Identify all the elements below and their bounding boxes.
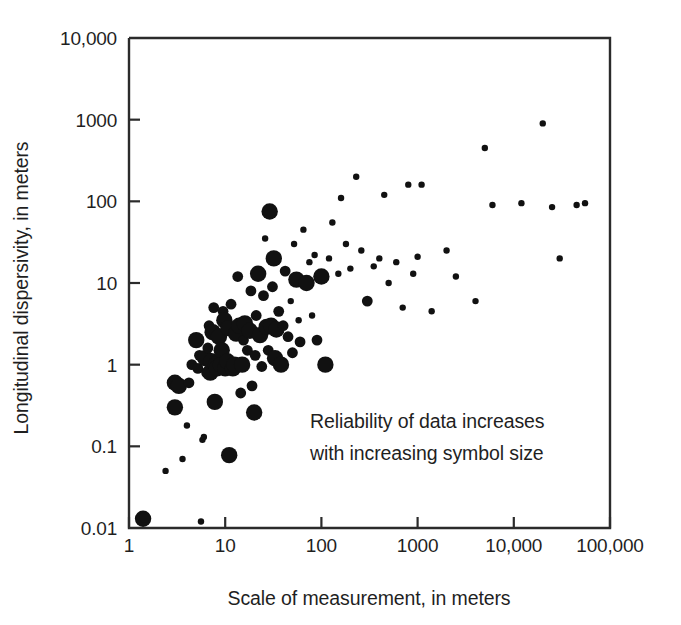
data-point — [557, 255, 563, 261]
data-point — [207, 394, 223, 410]
data-point — [326, 255, 332, 261]
data-point — [358, 247, 364, 253]
data-point — [311, 252, 317, 258]
data-point — [405, 181, 411, 187]
data-point — [400, 304, 406, 310]
data-point — [582, 200, 588, 206]
data-point — [573, 202, 579, 208]
reliability-note-line-1: Reliability of data increases — [310, 410, 545, 432]
data-point — [262, 235, 268, 241]
data-point — [306, 259, 312, 265]
data-point — [278, 320, 289, 331]
data-point — [312, 335, 323, 346]
data-point — [251, 310, 262, 321]
data-point — [202, 343, 213, 354]
x-axis-title: Scale of measurement, in meters — [227, 587, 510, 609]
data-point — [347, 265, 353, 271]
data-point — [371, 263, 377, 269]
reliability-note-line-2: with increasing symbol size — [309, 442, 544, 464]
y-tick-label: 0.1 — [91, 436, 117, 457]
data-point — [221, 447, 237, 463]
data-point — [139, 512, 150, 523]
data-point — [256, 361, 267, 372]
data-point — [300, 226, 306, 232]
data-point — [280, 266, 291, 277]
data-point — [167, 399, 183, 415]
data-point — [232, 271, 243, 282]
data-point — [198, 518, 204, 524]
y-axis-title: Longitudinal dispersivity, in meters — [10, 141, 32, 434]
x-axis-tick-labels: 110100100010,000100,000 — [124, 535, 644, 556]
y-axis-tick-labels: 0.010.1110100100010,000 — [60, 28, 117, 539]
data-point — [179, 456, 185, 462]
data-point — [295, 317, 301, 323]
data-point — [418, 181, 424, 187]
data-point — [329, 219, 335, 225]
data-point — [295, 337, 306, 348]
dispersivity-scatter-figure: 110100100010,000100,000 0.010.1110100100… — [0, 0, 681, 625]
x-tick-label: 1 — [124, 535, 134, 556]
data-point — [273, 356, 289, 372]
data-point — [188, 332, 204, 348]
data-point — [235, 388, 246, 399]
data-point — [385, 280, 391, 286]
data-point — [309, 312, 315, 318]
data-point — [261, 203, 277, 219]
y-tick-label: 100 — [86, 191, 117, 212]
data-point — [317, 356, 333, 372]
y-tick-label: 1000 — [76, 110, 117, 131]
data-point — [414, 253, 420, 259]
x-tick-label: 100 — [306, 535, 337, 556]
data-point — [443, 247, 449, 253]
data-point — [540, 120, 546, 126]
data-point — [201, 434, 207, 440]
scatter-plot-canvas: 110100100010,000100,000 0.010.1110100100… — [0, 0, 681, 625]
y-tick-label: 1 — [107, 355, 117, 376]
x-tick-label: 10 — [215, 535, 236, 556]
y-tick-label: 10 — [96, 273, 117, 294]
data-point — [287, 347, 298, 358]
x-tick-label: 10,000 — [485, 535, 542, 556]
data-point — [283, 331, 294, 342]
data-point — [250, 350, 261, 361]
y-tick-label: 0.01 — [81, 518, 117, 539]
data-point — [298, 275, 314, 291]
data-point — [353, 174, 359, 180]
data-point — [234, 356, 250, 372]
data-point — [410, 270, 416, 276]
data-point — [472, 298, 478, 304]
data-point — [162, 468, 168, 474]
data-point — [376, 255, 382, 261]
data-points-layer — [135, 120, 588, 527]
data-point — [273, 306, 284, 317]
data-point — [489, 202, 495, 208]
data-point — [246, 404, 262, 420]
data-point — [246, 286, 257, 297]
data-point — [250, 265, 266, 281]
data-point — [549, 204, 555, 210]
data-point — [184, 377, 195, 388]
data-point — [343, 241, 349, 247]
data-point — [258, 290, 269, 301]
data-point — [338, 195, 344, 201]
data-point — [362, 296, 373, 307]
data-point — [266, 250, 282, 266]
data-point — [226, 299, 237, 310]
y-tick-label: 10,000 — [60, 28, 117, 49]
y-axis-ticks — [129, 120, 140, 447]
data-point — [313, 268, 329, 284]
data-point — [381, 192, 387, 198]
data-point — [288, 298, 294, 304]
data-point — [291, 241, 297, 247]
data-point — [208, 302, 219, 313]
x-tick-label: 100,000 — [576, 535, 643, 556]
data-point — [482, 145, 488, 151]
data-point — [184, 422, 190, 428]
data-point — [518, 200, 524, 206]
data-point — [247, 380, 258, 391]
data-point — [335, 270, 341, 276]
x-tick-label: 1000 — [397, 535, 438, 556]
data-point — [453, 273, 459, 279]
data-point — [428, 308, 434, 314]
data-point — [267, 281, 278, 292]
